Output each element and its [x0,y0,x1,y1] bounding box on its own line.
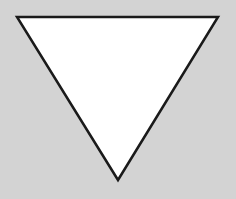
triangle-diagram [0,0,236,199]
diagram-canvas [0,0,236,199]
